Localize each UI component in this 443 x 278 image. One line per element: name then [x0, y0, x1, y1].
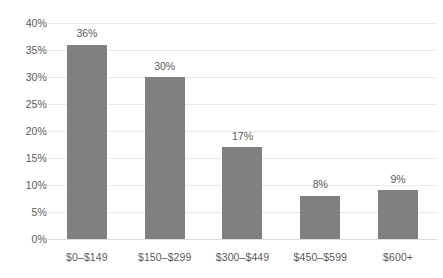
- bar-group: 9%: [359, 23, 437, 239]
- y-axis-tick-label: 40%: [0, 18, 47, 29]
- bar-chart: 0%5%10%15%20%25%30%35%40% 36%30%17%8%9% …: [0, 0, 443, 278]
- bar-value-label: 17%: [232, 131, 253, 142]
- gridline: [48, 239, 437, 240]
- bar[interactable]: [300, 196, 340, 239]
- y-axis-tick-label: 35%: [0, 45, 47, 56]
- bar-value-label: 36%: [76, 28, 97, 39]
- bar-value-label: 30%: [154, 61, 175, 72]
- plot-area: 36%30%17%8%9%: [48, 23, 437, 239]
- y-axis-tick-label: 10%: [0, 180, 47, 191]
- bar[interactable]: [145, 77, 185, 239]
- bar[interactable]: [378, 190, 418, 239]
- bar[interactable]: [67, 45, 107, 239]
- y-axis-tick-label: 15%: [0, 153, 47, 164]
- y-axis-tick-label: 25%: [0, 99, 47, 110]
- bar-group: 30%: [126, 23, 204, 239]
- bar-group: 36%: [48, 23, 126, 239]
- x-axis-category-label: $600+: [343, 252, 443, 263]
- bar[interactable]: [222, 147, 262, 239]
- bar-group: 8%: [281, 23, 359, 239]
- bar-group: 17%: [204, 23, 282, 239]
- bar-value-label: 9%: [390, 174, 405, 185]
- y-axis-tick-label: 30%: [0, 72, 47, 83]
- y-axis-tick-label: 20%: [0, 126, 47, 137]
- bar-value-label: 8%: [313, 179, 328, 190]
- y-axis-tick-label: 0%: [0, 234, 47, 245]
- bars-layer: 36%30%17%8%9%: [48, 23, 437, 239]
- y-axis-tick-label: 5%: [0, 207, 47, 218]
